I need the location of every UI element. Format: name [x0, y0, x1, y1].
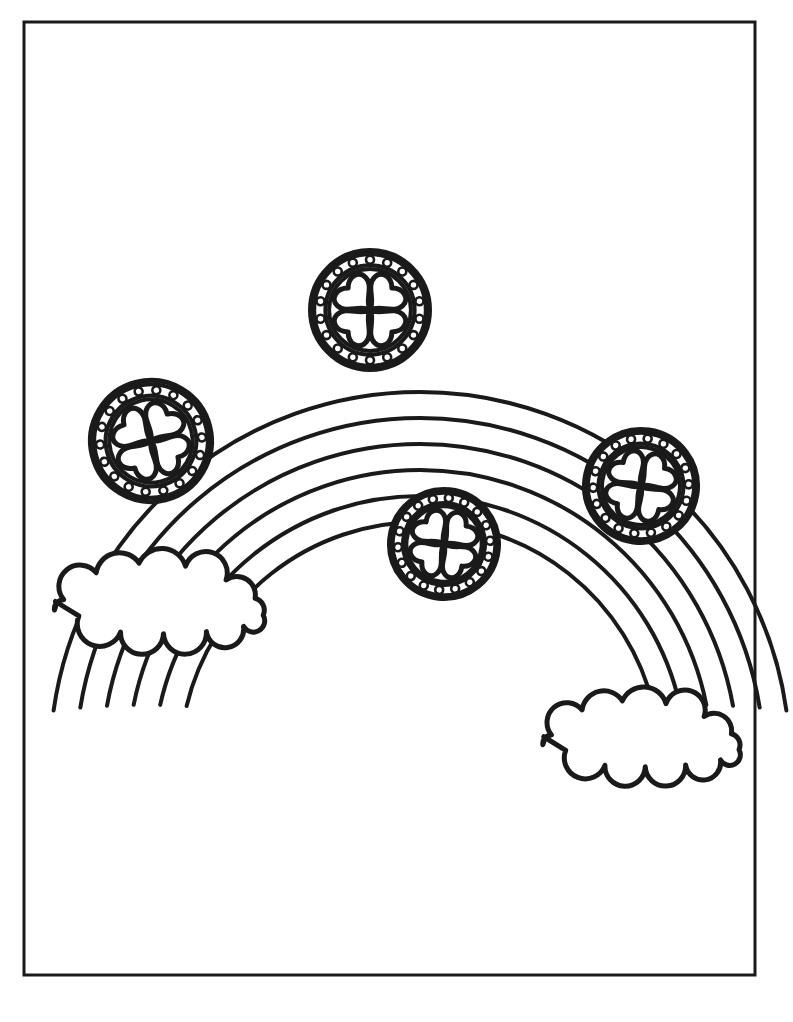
- coloring-page: Rainbow With Clover Coins Coloring Page: [0, 0, 793, 1022]
- coin-top: [311, 251, 430, 370]
- coloring-page-artwork: [0, 0, 793, 1022]
